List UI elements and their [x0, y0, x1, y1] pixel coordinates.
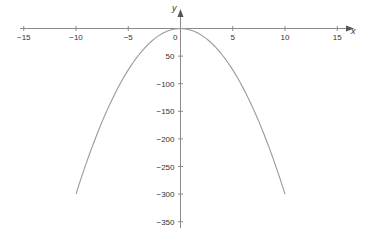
y-tick-label: 50: [166, 52, 175, 61]
parabola-chart: −15−10−505101550−100−150−200−250−300−350…: [0, 0, 368, 238]
x-axis-label: x: [350, 26, 356, 36]
y-axis-arrow-icon: [178, 9, 184, 17]
ticks: −15−10−505101550−100−150−200−250−300−350: [17, 26, 342, 227]
x-tick-label: 15: [333, 33, 342, 42]
x-tick-label: 10: [281, 33, 290, 42]
x-tick-label: −15: [17, 33, 31, 42]
y-tick-label: −350: [156, 218, 175, 227]
y-tick-label: −100: [156, 80, 175, 89]
x-tick-label: 5: [231, 33, 236, 42]
y-axis-label: y: [171, 3, 177, 13]
y-tick-label: −300: [156, 190, 175, 199]
x-tick-label: −5: [124, 33, 134, 42]
y-tick-label: −200: [156, 135, 175, 144]
y-tick-label: −150: [156, 107, 175, 116]
x-tick-label: 0: [173, 33, 178, 42]
y-tick-label: −250: [156, 163, 175, 172]
x-tick-label: −10: [69, 33, 83, 42]
axes: [20, 9, 354, 228]
